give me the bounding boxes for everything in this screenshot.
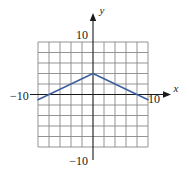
y-axis-name-label: y [99, 4, 105, 16]
x-axis-arrow-icon [163, 91, 171, 97]
graph-figure: −10 10 10 −10 x y [0, 0, 189, 175]
y-axis [90, 13, 96, 160]
y-tick-label-positive-ten: 10 [76, 28, 88, 42]
coordinate-plane-svg: −10 10 10 −10 x y [0, 0, 189, 175]
y-tick-label-negative-ten: −10 [69, 154, 88, 168]
x-tick-label-positive-ten: 10 [148, 92, 160, 106]
y-axis-arrow-icon [90, 13, 96, 21]
x-axis-name-label: x [173, 82, 179, 94]
x-tick-label-negative-ten: −10 [10, 89, 29, 103]
